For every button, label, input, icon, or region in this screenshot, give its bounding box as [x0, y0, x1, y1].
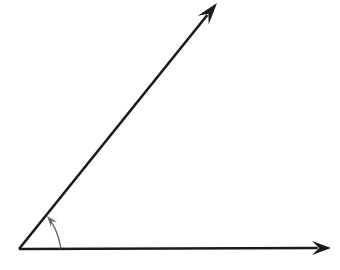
angle-diagram	[0, 0, 340, 270]
horizontal-ray-shaft	[19, 248, 318, 249]
angle-figure-canvas	[0, 0, 340, 270]
background	[0, 0, 340, 270]
